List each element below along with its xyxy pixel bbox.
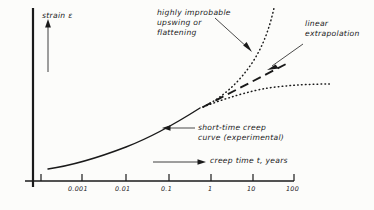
- x-tick-label-10: 10: [247, 185, 256, 193]
- y-axis-arrow-icon: [45, 19, 51, 72]
- x-axis-ticks: [41, 174, 294, 181]
- linear-leader-arrow-icon: [267, 44, 303, 70]
- series-improbable-flattening: [203, 84, 330, 107]
- series-short-time-creep-curve: [48, 108, 200, 169]
- annotation-upswing-line1: highly improbable: [157, 8, 231, 17]
- x-tick-label-1: 1: [208, 185, 212, 193]
- short-time-leader-arrow-icon: [162, 125, 195, 131]
- annotation-upswing-line2: upswing or: [157, 18, 202, 27]
- annotation-short-time-line1: short-time creep: [198, 123, 266, 132]
- upswing-leader-arrow-icon: [215, 18, 252, 52]
- x-tick-label-0.1: 0.1: [161, 185, 172, 193]
- series-improbable-upswing: [203, 8, 274, 107]
- annotation-linear-line2: extrapolation: [305, 29, 360, 38]
- x-tick-label-0.01: 0.01: [115, 185, 130, 193]
- annotation-upswing-line3: flattening: [157, 28, 197, 37]
- x-axis-arrow-icon: [153, 159, 206, 165]
- y-axis-label: strain ε: [42, 11, 73, 20]
- annotation-short-time-line2: curve (experimental): [198, 133, 284, 142]
- x-tick-label-100: 100: [286, 185, 299, 193]
- x-tick-label-0.001: 0.001: [68, 185, 88, 193]
- x-axis-label: creep time t, years: [210, 156, 288, 165]
- series-linear-extrapolation: [203, 64, 286, 107]
- creep-curve-figure: strain ε creep time t, years 0.001 0.01 …: [0, 0, 374, 210]
- annotation-linear-line1: linear: [305, 19, 328, 28]
